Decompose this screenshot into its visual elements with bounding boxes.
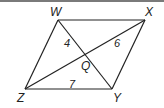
side-zw [25, 20, 58, 89]
parallelogram-diagram: W X Z Y Q 4 6 7 [0, 0, 164, 108]
vertex-label-y: Y [113, 91, 122, 105]
vertex-label-x: X [144, 5, 154, 19]
diagonal-zx [25, 20, 145, 89]
segment-label-zy: 7 [69, 78, 76, 90]
side-xy [112, 20, 145, 89]
intersection-label-q: Q [81, 59, 90, 73]
segment-label-wq: 4 [64, 37, 70, 49]
vertex-label-w: W [50, 5, 63, 19]
vertex-label-z: Z [16, 91, 25, 105]
segment-label-xq: 6 [114, 37, 121, 49]
